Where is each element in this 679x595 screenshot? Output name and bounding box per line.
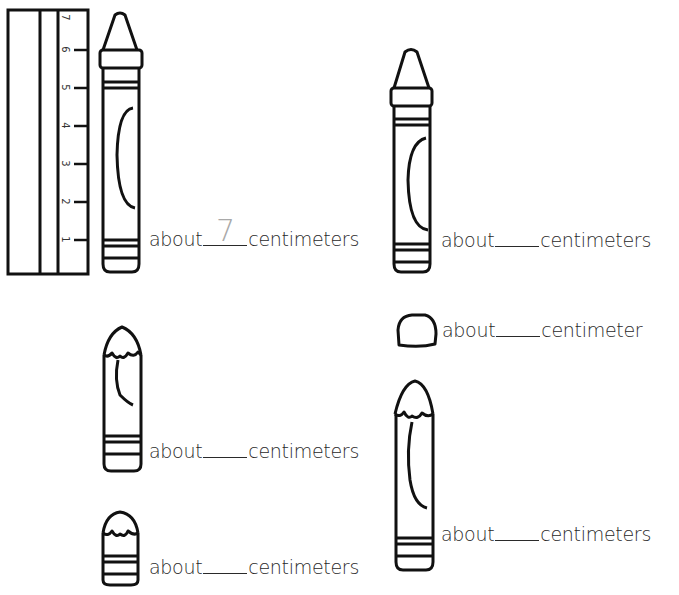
- crayon-full-right-icon: [391, 50, 432, 273]
- ruler-tick-3: 3: [60, 160, 71, 166]
- label-suffix: centimeters: [540, 229, 651, 251]
- label-suffix: centimeters: [248, 556, 359, 578]
- crayon-full-left-icon: [100, 13, 142, 272]
- crayon-worn-left-icon: [104, 327, 141, 471]
- answer-blank[interactable]: [496, 318, 540, 337]
- label-prefix: about: [442, 319, 495, 341]
- label-prefix: about: [441, 523, 494, 545]
- item-label-crayon-full-left: about7centimeters: [149, 227, 359, 251]
- label-suffix: centimeter: [541, 319, 642, 341]
- answer-blank[interactable]: [495, 522, 539, 541]
- answer-blank[interactable]: [203, 555, 247, 574]
- answer-blank[interactable]: [203, 439, 247, 458]
- label-prefix: about: [441, 229, 494, 251]
- ruler-tick-2: 2: [60, 198, 71, 204]
- item-label-crayon-stub: aboutcentimeters: [149, 555, 359, 579]
- item-label-eraser-stub: aboutcentimeter: [442, 318, 642, 342]
- ruler-tick-4: 4: [60, 122, 71, 128]
- ruler: [8, 10, 88, 274]
- answer-blank[interactable]: 7: [203, 227, 247, 246]
- ruler-tick-5: 5: [60, 84, 71, 90]
- label-suffix: centimeters: [248, 228, 359, 250]
- ruler-tick-1: 1: [60, 236, 71, 242]
- label-suffix: centimeters: [248, 440, 359, 462]
- crayon-worn-right-icon: [395, 381, 433, 570]
- stub-shape-icon: [398, 315, 436, 346]
- ruler-tick-7: 7: [60, 14, 71, 20]
- answer-value: 7: [203, 216, 247, 246]
- worksheet-illustrations: [0, 0, 679, 595]
- label-suffix: centimeters: [540, 523, 651, 545]
- item-label-crayon-worn-left: aboutcentimeters: [149, 439, 359, 463]
- item-label-crayon-worn-right: aboutcentimeters: [441, 522, 651, 546]
- answer-blank[interactable]: [495, 228, 539, 247]
- crayon-stub-icon: [103, 512, 138, 585]
- label-prefix: about: [149, 556, 202, 578]
- ruler-tick-6: 6: [60, 46, 71, 52]
- label-prefix: about: [149, 228, 202, 250]
- label-prefix: about: [149, 440, 202, 462]
- item-label-crayon-full-right: aboutcentimeters: [441, 228, 651, 252]
